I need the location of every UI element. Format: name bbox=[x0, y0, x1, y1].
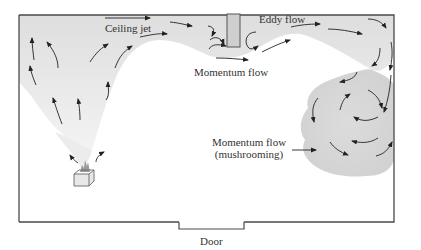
smoke-flow-diagram bbox=[0, 0, 421, 250]
label-ceiling-jet: Ceiling jet bbox=[105, 22, 151, 34]
soffit-column bbox=[227, 14, 240, 47]
mushroom-cloud bbox=[301, 69, 394, 176]
label-momentum-flow-mushrooming-line1: Momentum flow bbox=[208, 136, 290, 148]
door bbox=[179, 222, 244, 229]
label-momentum-flow-mushrooming: Momentum flow (mushrooming) bbox=[208, 136, 290, 160]
label-momentum-flow: Momentum flow bbox=[194, 66, 268, 78]
label-momentum-flow-mushrooming-line2: (mushrooming) bbox=[208, 148, 290, 160]
label-door: Door bbox=[200, 235, 223, 247]
label-eddy-flow: Eddy flow bbox=[259, 13, 305, 25]
